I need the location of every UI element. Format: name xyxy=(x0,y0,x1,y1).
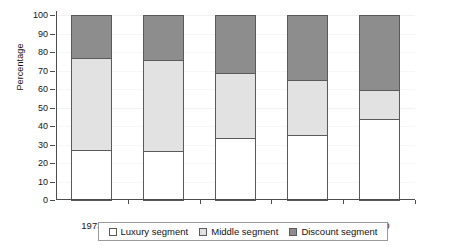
plot-area: 0102030405060708090100 19731981198619902… xyxy=(56,15,415,200)
y-axis-tick xyxy=(50,15,55,16)
legend-label: Middle segment xyxy=(211,226,278,237)
bar-segment-discount-segment[interactable] xyxy=(71,15,112,59)
y-axis-tick xyxy=(50,34,55,35)
legend-swatch-luxury-icon xyxy=(109,228,117,236)
bar-segment-middle-segment[interactable] xyxy=(71,58,112,152)
y-axis-tick-label: 30 xyxy=(38,140,48,150)
y-axis-tick xyxy=(50,200,55,201)
y-axis-title: Percentage xyxy=(15,17,25,117)
bar-segment-luxury-segment[interactable] xyxy=(359,119,400,201)
legend-swatch-middle-icon xyxy=(199,228,207,236)
bar-segment-discount-segment[interactable] xyxy=(215,15,256,74)
y-axis-tick xyxy=(50,52,55,53)
stacked-bar-chart: Percentage 0102030405060708090100 197319… xyxy=(0,0,461,251)
bar-segment-middle-segment[interactable] xyxy=(359,90,400,120)
bar-segment-discount-segment[interactable] xyxy=(143,15,184,61)
y-axis-tick-label: 70 xyxy=(38,66,48,76)
bar-stack[interactable] xyxy=(287,15,328,200)
x-axis-tick xyxy=(271,200,272,204)
y-axis-tick xyxy=(50,126,55,127)
x-axis-tick xyxy=(200,200,201,204)
y-axis-tick-label: 60 xyxy=(38,84,48,94)
plot-inner: 0102030405060708090100 xyxy=(56,15,415,200)
x-axis-tick xyxy=(128,200,129,204)
legend-swatch-discount-icon xyxy=(289,228,297,236)
y-axis-tick xyxy=(50,71,55,72)
bar-segment-discount-segment[interactable] xyxy=(287,15,328,81)
bar-segment-luxury-segment[interactable] xyxy=(71,150,112,201)
legend-label: Discount segment xyxy=(301,226,377,237)
y-axis-tick-label: 50 xyxy=(38,103,48,113)
y-axis-tick xyxy=(50,163,55,164)
y-axis-tick-label: 90 xyxy=(38,29,48,39)
y-axis-tick xyxy=(50,89,55,90)
y-axis-tick xyxy=(50,145,55,146)
bar-stack[interactable] xyxy=(359,15,400,200)
bar-segment-luxury-segment[interactable] xyxy=(287,135,328,201)
x-axis-line xyxy=(56,199,415,200)
y-axis-tick-label: 0 xyxy=(43,195,48,205)
bar-stack[interactable] xyxy=(143,15,184,200)
bar-segment-middle-segment[interactable] xyxy=(287,80,328,137)
chart-legend: Luxury segmentMiddle segmentDiscount seg… xyxy=(98,222,388,241)
y-axis-line xyxy=(56,11,57,200)
y-axis-tick-label: 20 xyxy=(38,158,48,168)
legend-label: Luxury segment xyxy=(121,226,189,237)
legend-item-luxury-segment[interactable]: Luxury segment xyxy=(109,226,189,237)
bar-segment-luxury-segment[interactable] xyxy=(143,151,184,201)
y-axis-tick xyxy=(50,108,55,109)
y-axis-tick-label: 10 xyxy=(38,177,48,187)
x-axis-tick xyxy=(343,200,344,204)
bar-segment-discount-segment[interactable] xyxy=(359,15,400,91)
bar-stack[interactable] xyxy=(215,15,256,200)
x-axis-tick xyxy=(415,200,416,204)
y-axis-tick xyxy=(50,182,55,183)
y-axis-tick-label: 100 xyxy=(33,10,48,20)
bar-segment-luxury-segment[interactable] xyxy=(215,138,256,201)
legend-item-middle-segment[interactable]: Middle segment xyxy=(199,226,278,237)
bar-segment-middle-segment[interactable] xyxy=(215,73,256,139)
y-axis-tick-label: 80 xyxy=(38,47,48,57)
bar-segment-middle-segment[interactable] xyxy=(143,60,184,152)
bar-stack[interactable] xyxy=(71,15,112,200)
legend-item-discount-segment[interactable]: Discount segment xyxy=(289,226,377,237)
y-axis-tick-label: 40 xyxy=(38,121,48,131)
